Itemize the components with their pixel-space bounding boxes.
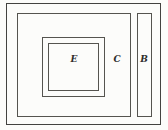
label-c: C (111, 54, 123, 65)
label-e: E (68, 54, 80, 65)
bar-b-rect (137, 13, 152, 117)
euler-diagram-canvas: E C B (0, 0, 168, 130)
box-e-inner-rect (48, 43, 99, 91)
label-b: B (138, 54, 150, 65)
